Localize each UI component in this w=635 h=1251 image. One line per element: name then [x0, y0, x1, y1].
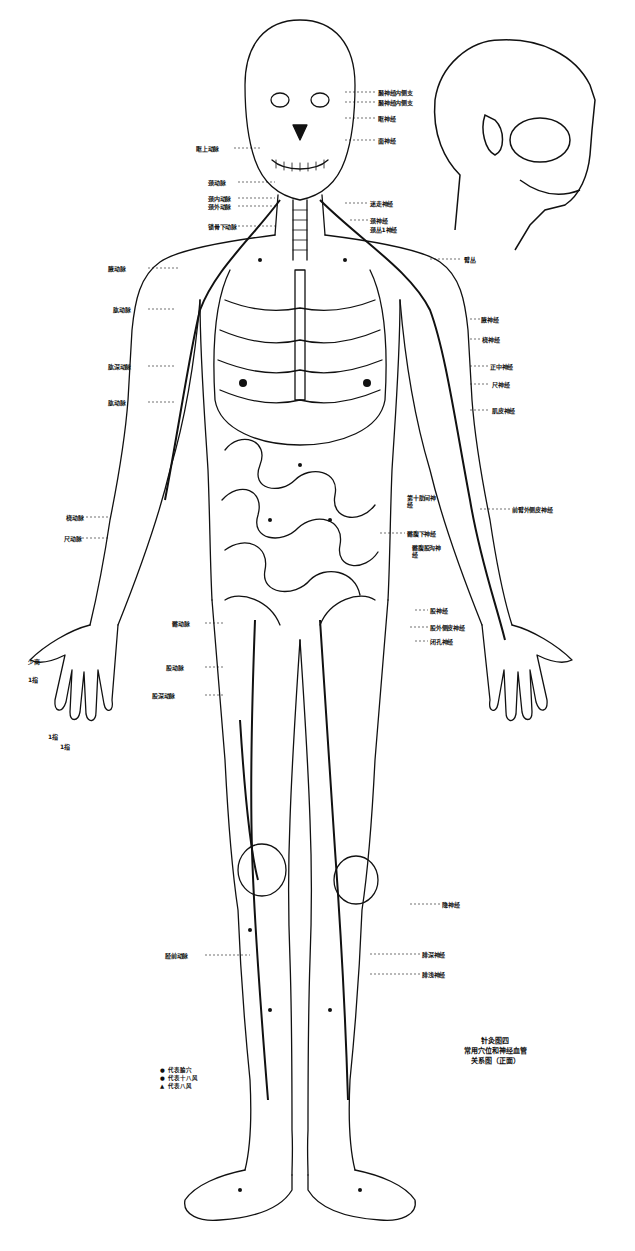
label-superficial-peroneal-nerve: 腓浅神经	[422, 971, 445, 978]
label-iliac-artery: 髂动脉	[172, 620, 189, 627]
label-deep-peroneal-nerve: 腓深神经	[422, 951, 445, 958]
label-finger-2: 1指	[48, 733, 58, 740]
label-subclavian-artery: 锁骨下动脉	[208, 223, 237, 230]
label-ulnar-nerve: 尺神经	[492, 381, 509, 388]
label-cervical-nerve: 颈神经	[370, 217, 387, 224]
figure-subtitle-1: 常用穴位和神经血管	[440, 1046, 550, 1056]
label-saphenous-nerve: 隐神经	[442, 901, 459, 908]
label-obturator-nerve: 闭孔神经	[430, 638, 453, 645]
label-iliohypogastric-nerve: 髂腹下神经	[407, 530, 436, 537]
label-ilioinguinal-nerve: 髂腹股沟神经	[412, 544, 442, 558]
label-femoral-artery: 股动脉	[166, 664, 183, 671]
label-deep-brachial-artery: 肱深动脉	[108, 363, 131, 370]
label-brachial-artery: 肱动脉	[113, 306, 130, 313]
label-lateral-antebrachial-cutaneous-nerve: 前臂外侧皮神经	[512, 506, 553, 513]
label-orbital-nerve: 眶神经	[378, 115, 395, 122]
label-external-carotid: 颈外动脉	[208, 203, 231, 210]
label-deep-femoral-artery: 股深动脉	[152, 692, 175, 699]
label-ulnar-artery: 尺动脉	[64, 535, 81, 542]
legend-item: ●代表腧穴	[160, 1066, 198, 1074]
label-temporal-nerve-1: 颞神经内侧支	[378, 89, 413, 96]
label-finger-1: 1指	[28, 676, 38, 683]
label-facial-nerve: 面神经	[378, 137, 395, 144]
dot-icon: ●	[160, 1074, 168, 1082]
label-finger-3: 1指	[60, 743, 70, 750]
label-tenth-intercostal-nerve: 第十肋间神经	[407, 494, 437, 508]
label-radial-nerve: 桡神经	[482, 336, 499, 343]
label-axillary-artery: 腋动脉	[108, 265, 125, 272]
label-brachial-plexus: 臂丛	[464, 256, 476, 263]
acupuncture-anatomy-diagram: 颞神经内侧支 颞神经内侧支 眶神经 面神经 眶上动脉 颈动脉 颈内动脉 颈外动脉…	[0, 0, 635, 1251]
label-axillary-nerve: 腋神经	[481, 316, 498, 323]
dot-icon: ●	[160, 1066, 168, 1074]
figure-title: 针灸图四	[440, 1036, 550, 1046]
label-median-nerve: 正中神经	[490, 363, 513, 370]
label-vagus-nerve: 迷走神经	[370, 200, 393, 207]
label-radial-artery: 桡动脉	[66, 514, 83, 521]
label-carotid-artery: 颈动脉	[208, 179, 225, 186]
label-femoral-nerve: 股神经	[430, 607, 447, 614]
label-musculocutaneous-nerve: 肌皮神经	[492, 407, 515, 414]
legend: ●代表腧穴 ●代表十八风 ▲代表八风	[160, 1066, 198, 1090]
label-shaoshang: 少商	[28, 658, 40, 665]
legend-item: ●代表十八风	[160, 1074, 198, 1082]
figure-subtitle-2: 关系图（正面）	[440, 1056, 550, 1066]
label-supraorbital-artery: 眶上动脉	[196, 145, 219, 152]
figure-caption: 针灸图四 常用穴位和神经血管 关系图（正面）	[440, 1036, 550, 1066]
triangle-icon: ▲	[160, 1082, 168, 1090]
label-brachial-artery-2: 肱动脉	[108, 399, 125, 406]
label-anterior-tibial-artery: 胫前动脉	[165, 952, 188, 959]
label-cervical-plexus: 颈丛1神经	[370, 226, 397, 233]
legend-item: ▲代表八风	[160, 1082, 198, 1090]
label-internal-carotid: 颈内动脉	[208, 195, 231, 202]
label-lateral-femoral-cutaneous-nerve: 股外侧皮神经	[430, 624, 465, 631]
label-temporal-nerve-2: 颞神经内侧支	[378, 99, 413, 106]
